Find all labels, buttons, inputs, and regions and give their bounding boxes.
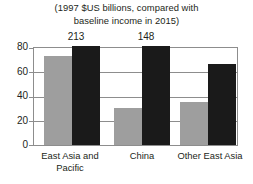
y-tick-mark-20 xyxy=(29,121,33,122)
bar-china-dark xyxy=(142,46,170,145)
chart-title-line-2: baseline income in 2015) xyxy=(0,15,253,28)
y-tick-label-80: 80 xyxy=(2,42,28,52)
bar-east-asia-and-pacific-gray xyxy=(44,56,72,145)
bar-group-east-asia-and-pacific xyxy=(44,48,102,145)
category-label-east-asia-and-pacific-line-1: East Asia and xyxy=(20,150,120,162)
y-tick-label-0: 0 xyxy=(2,140,28,150)
y-tick-mark-40 xyxy=(29,97,33,98)
category-label-other-east-asia: Other East Asia xyxy=(167,150,253,162)
y-tick-mark-60 xyxy=(29,72,33,73)
bar-value-label-east-asia-and-pacific: 213 xyxy=(56,31,96,42)
y-tick-mark-0 xyxy=(29,145,33,146)
y-tick-label-60: 60 xyxy=(2,67,28,77)
y-axis: 80 60 40 20 0 xyxy=(0,47,28,146)
y-tick-label-20: 20 xyxy=(2,116,28,126)
bar-group-other-east-asia xyxy=(180,48,238,145)
y-tick-mark-80 xyxy=(29,48,33,49)
category-label-china: China xyxy=(116,150,168,162)
category-label-east-asia-and-pacific: East Asia and Pacific xyxy=(20,150,120,174)
category-label-china-line-1: China xyxy=(116,150,168,162)
bar-value-label-china: 148 xyxy=(126,31,166,42)
bar-east-asia-and-pacific-dark xyxy=(72,46,100,145)
category-label-east-asia-and-pacific-line-2: Pacific xyxy=(20,162,120,174)
x-axis-category-labels: East Asia and Pacific China Other East A… xyxy=(0,150,253,182)
chart-title-line-1: (1997 $US billions, compared with xyxy=(0,2,253,15)
bar-chart-figure: (1997 $US billions, compared with baseli… xyxy=(0,0,253,184)
category-label-other-east-asia-line-1: Other East Asia xyxy=(167,150,253,162)
bar-other-east-asia-dark xyxy=(208,64,236,145)
plot-area xyxy=(33,47,238,146)
y-tick-label-40: 40 xyxy=(2,91,28,101)
bar-china-gray xyxy=(114,108,142,145)
bar-other-east-asia-gray xyxy=(180,102,208,145)
chart-title: (1997 $US billions, compared with baseli… xyxy=(0,2,253,27)
bar-group-china xyxy=(114,48,172,145)
